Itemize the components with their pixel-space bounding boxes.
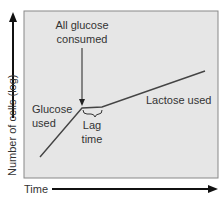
annotation-glucose: Glucose [32,103,72,115]
annotation-glucose-used: used [32,117,56,129]
chart: All glucose consumed Glucose used Lag ti… [0,0,223,205]
annotation-lactose-used: Lactose used [146,94,211,106]
x-arrowhead-icon [208,185,218,193]
annotation-lag: Lag [83,119,101,131]
y-arrowhead-icon [9,12,17,22]
annotation-consumed: consumed [57,33,108,45]
annotation-time: time [82,133,103,145]
annotation-all-glucose: All glucose [55,19,108,31]
y-axis-label: Number of cells (log) [6,75,18,176]
x-axis-label: Time [24,183,48,195]
